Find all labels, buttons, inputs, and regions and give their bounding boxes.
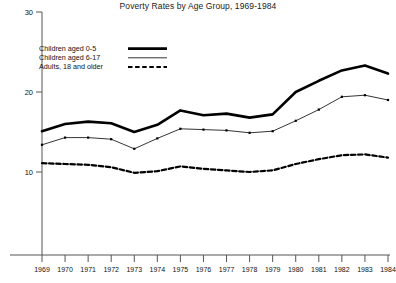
x-tick-label: 1971 bbox=[80, 266, 96, 273]
x-tick-label: 1982 bbox=[334, 266, 350, 273]
legend-label-1: Children aged 0-5 bbox=[39, 44, 96, 53]
x-tick-label: 1983 bbox=[357, 266, 373, 273]
y-axis-ticks: 302010 bbox=[25, 8, 42, 177]
data-point-marker bbox=[364, 94, 366, 96]
data-point-marker bbox=[387, 99, 389, 101]
data-point-marker bbox=[64, 137, 66, 139]
series-line-3 bbox=[42, 154, 388, 172]
x-tick-label: 1980 bbox=[288, 266, 304, 273]
data-point-marker bbox=[249, 132, 251, 134]
data-point-marker bbox=[295, 120, 297, 122]
x-tick-label: 1974 bbox=[150, 266, 166, 273]
x-tick-label: 1977 bbox=[219, 266, 235, 273]
legend-label-3: Adults, 18 and older bbox=[39, 62, 104, 71]
x-tick-label: 1970 bbox=[57, 266, 73, 273]
data-point-marker bbox=[110, 138, 112, 140]
x-tick-label: 1976 bbox=[196, 266, 212, 273]
x-tick-label: 1978 bbox=[242, 266, 258, 273]
chart-plot-area: 302010 196919701971197219731974197519761… bbox=[0, 0, 396, 283]
x-tick-label: 1973 bbox=[126, 266, 142, 273]
x-tick-label: 1984 bbox=[380, 266, 396, 273]
data-point-marker bbox=[225, 129, 227, 131]
data-point-marker bbox=[318, 109, 320, 111]
data-series-layer bbox=[41, 66, 389, 173]
data-point-marker bbox=[87, 137, 89, 139]
y-tick-label: 10 bbox=[25, 168, 33, 177]
x-tick-label: 1972 bbox=[103, 266, 119, 273]
data-point-marker bbox=[272, 130, 274, 132]
y-tick-label: 20 bbox=[25, 88, 33, 97]
x-tick-label: 1975 bbox=[173, 266, 189, 273]
series-line-1 bbox=[42, 66, 388, 132]
data-point-marker bbox=[179, 128, 181, 130]
data-point-marker bbox=[133, 148, 135, 150]
x-tick-label: 1979 bbox=[265, 266, 281, 273]
x-tick-label: 1969 bbox=[34, 266, 50, 273]
chart-legend: Children aged 0-5Children aged 6-17Adult… bbox=[39, 44, 167, 71]
data-point-marker bbox=[341, 96, 343, 98]
chart-container: Poverty Rates by Age Group, 1969-1984 30… bbox=[0, 0, 396, 283]
legend-label-2: Children aged 6-17 bbox=[39, 53, 100, 62]
data-point-marker bbox=[156, 137, 158, 139]
x-tick-label: 1981 bbox=[311, 266, 327, 273]
data-point-marker bbox=[202, 129, 204, 131]
data-point-marker bbox=[41, 144, 43, 146]
x-axis-ticks: 1969197019711972197319741975197619771978… bbox=[34, 255, 396, 273]
y-tick-label: 30 bbox=[25, 8, 33, 17]
